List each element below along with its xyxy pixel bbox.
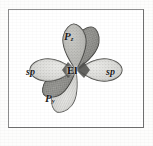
label-orbital-pz: Pz [64,31,73,43]
orbital-figure: Pz Py sp sp El [0,0,153,146]
label-center-atom: El [67,65,77,76]
label-orbital-sp-right: sp [106,67,115,77]
label-orbital-sp-left: sp [26,67,35,77]
label-orbital-py: Py [45,93,55,105]
